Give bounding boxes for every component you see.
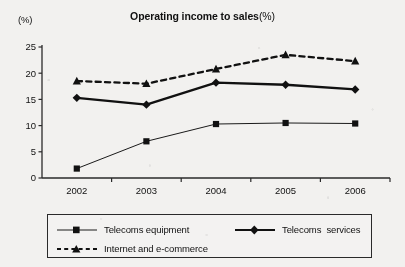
legend-row-2: Internet and e-commerce <box>56 239 371 258</box>
x-axis-tick-label: 2002 <box>66 185 87 196</box>
x-axis-tick-label: 2003 <box>136 185 157 196</box>
series-1 <box>74 120 359 172</box>
data-point-marker <box>73 94 81 102</box>
data-point-marker <box>143 138 149 144</box>
legend-row-1: Telecoms equipment Telecoms services <box>56 220 371 239</box>
y-axis-tick-label: 25 <box>25 41 36 52</box>
y-axis-tick-label: 5 <box>31 146 36 157</box>
legend-item-telecoms-equipment[interactable]: Telecoms equipment <box>56 224 234 236</box>
data-point-marker <box>142 100 150 108</box>
data-point-marker <box>352 120 358 126</box>
y-axis-tick-label: 10 <box>25 120 36 131</box>
data-point-marker <box>351 85 359 93</box>
legend-label-telecoms-services: Telecoms services <box>282 224 360 235</box>
data-point-marker <box>283 120 289 126</box>
legend-key-triangle-icon <box>56 243 98 255</box>
line-chart-svg: 051015202520022003200420052006 <box>0 0 405 200</box>
chart-container: (%) Operating income to sales(%) 0510152… <box>0 0 405 267</box>
legend-key-square-icon <box>56 224 98 236</box>
legend-label-telecoms-equipment: Telecoms equipment <box>104 224 189 235</box>
legend-item-internet-ecommerce[interactable]: Internet and e-commerce <box>56 243 234 255</box>
data-point-marker <box>213 121 219 127</box>
data-point-marker <box>212 78 220 86</box>
legend-key-diamond-icon <box>234 224 276 236</box>
y-axis-tick-label: 0 <box>31 172 36 183</box>
x-axis-tick-label: 2005 <box>275 185 296 196</box>
plot-area: 051015202520022003200420052006 <box>0 0 405 200</box>
y-axis-tick-label: 20 <box>25 68 36 79</box>
x-axis-tick-label: 2004 <box>205 185 226 196</box>
chart-legend: Telecoms equipment Telecoms services Int… <box>47 214 372 258</box>
y-axis-tick-label: 15 <box>25 94 36 105</box>
legend-item-telecoms-services[interactable]: Telecoms services <box>234 224 360 236</box>
data-point-marker <box>281 81 289 89</box>
x-axis-tick-label: 2006 <box>345 185 366 196</box>
data-point-marker <box>74 165 80 171</box>
legend-label-internet-ecommerce: Internet and e-commerce <box>104 243 208 254</box>
